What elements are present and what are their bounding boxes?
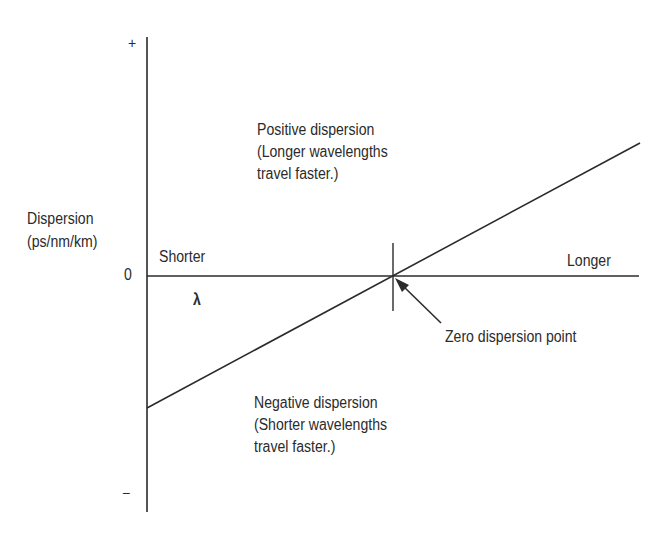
positive-dispersion-line2: (Longer wavelengths: [257, 142, 388, 161]
x-axis-longer-label: Longer: [567, 251, 611, 270]
lambda-symbol: λ: [193, 290, 201, 309]
positive-dispersion-line1: Positive dispersion: [257, 120, 374, 139]
y-axis-title-line1: Dispersion: [27, 209, 94, 228]
zero-dispersion-label: Zero dispersion point: [445, 327, 576, 346]
positive-dispersion-line3: travel faster.): [257, 164, 338, 183]
negative-dispersion-line3: travel faster.): [254, 437, 335, 456]
y-axis-minus-label: −: [122, 486, 130, 500]
y-axis-title-line2: (ps/nm/km): [27, 232, 97, 251]
diagram-canvas: [0, 0, 666, 542]
negative-dispersion-line1: Negative dispersion: [254, 393, 378, 412]
x-axis-shorter-label: Shorter: [159, 247, 205, 266]
negative-dispersion-line2: (Shorter wavelengths: [254, 415, 387, 434]
arrow-icon: [395, 278, 441, 323]
y-axis-plus-label: +: [128, 36, 136, 50]
dispersion-diagram: + − 0 Dispersion (ps/nm/km) Shorter Long…: [0, 0, 666, 542]
y-axis-zero-label: 0: [124, 265, 132, 284]
